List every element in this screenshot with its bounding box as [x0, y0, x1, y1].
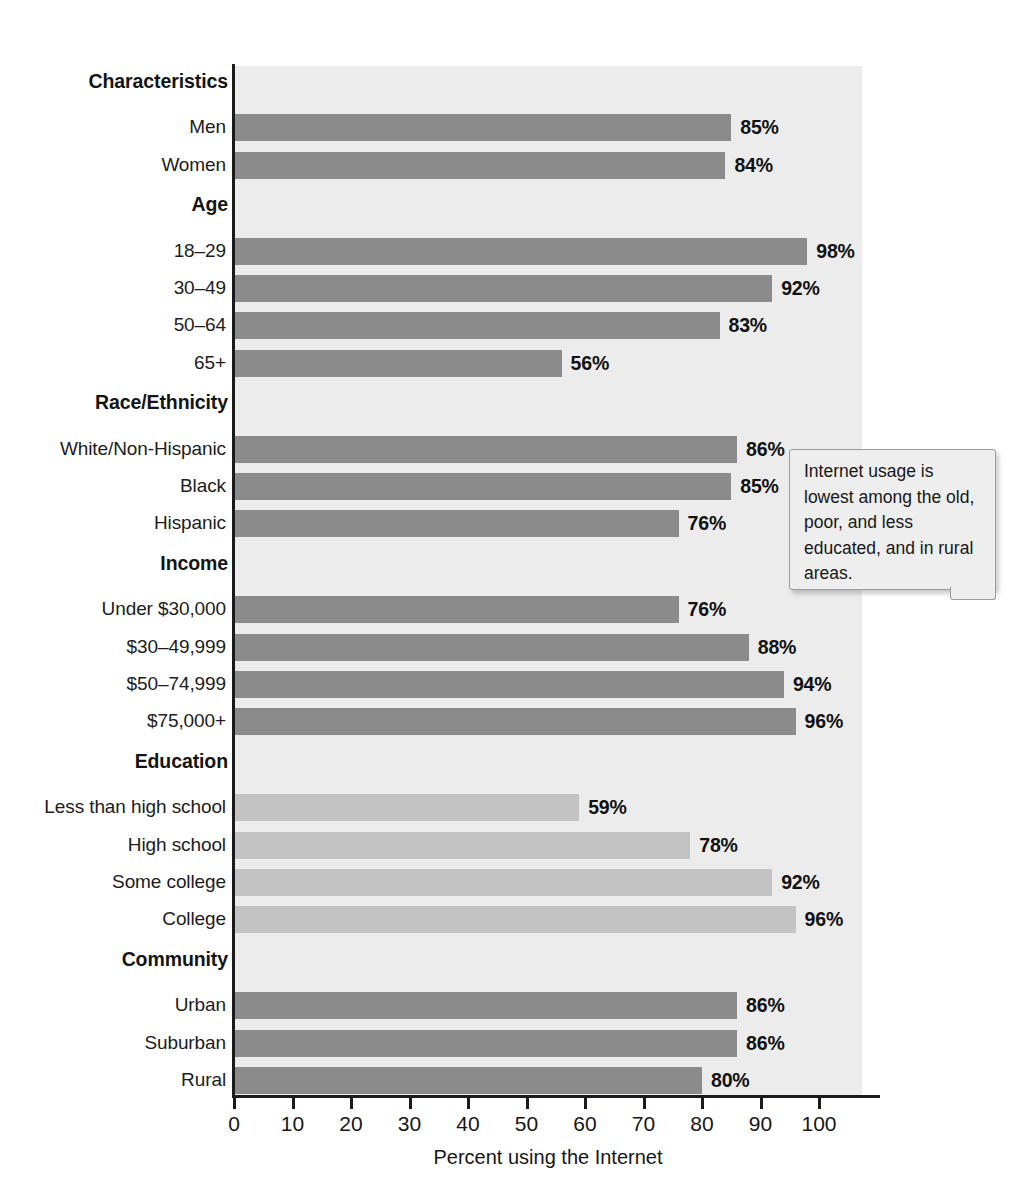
x-tick-label-10: 10 — [281, 1112, 304, 1136]
x-tick-0 — [233, 1096, 236, 1109]
x-tick-label-0: 0 — [228, 1112, 240, 1136]
x-tick-20 — [350, 1096, 353, 1109]
bar-value-under-30-000: 76% — [688, 598, 726, 621]
bar-black — [234, 473, 731, 500]
group-heading-community: Community — [0, 948, 228, 971]
x-tick-label-50: 50 — [515, 1112, 538, 1136]
category-label-urban: Urban — [0, 994, 226, 1016]
category-label-under-30-000: Under $30,000 — [0, 598, 226, 620]
bar-white-non-hispanic — [234, 436, 737, 463]
x-tick-10 — [292, 1096, 295, 1109]
category-label-black: Black — [0, 475, 226, 497]
bar-value-white-non-hispanic: 86% — [746, 438, 784, 461]
bar-hispanic — [234, 510, 679, 537]
x-tick-label-30: 30 — [398, 1112, 421, 1136]
bar-suburban — [234, 1030, 737, 1057]
bar-men — [234, 114, 731, 141]
category-label-75-000: $75,000+ — [0, 710, 226, 732]
callout-text: Internet usage is lowest among the old, … — [804, 459, 982, 587]
bar-30-49-999 — [234, 634, 749, 661]
x-tick-label-40: 40 — [456, 1112, 479, 1136]
category-label-50-74-999: $50–74,999 — [0, 673, 226, 695]
bar-high-school — [234, 832, 690, 859]
x-tick-50 — [526, 1096, 529, 1109]
bar-65 — [234, 350, 562, 377]
category-label-hispanic: Hispanic — [0, 512, 226, 534]
category-label-women: Women — [0, 154, 226, 176]
x-axis-title: Percent using the Internet — [234, 1146, 862, 1169]
bar-value-suburban: 86% — [746, 1032, 784, 1055]
x-tick-label-80: 80 — [690, 1112, 713, 1136]
bar-50-64 — [234, 312, 720, 339]
x-tick-80 — [701, 1096, 704, 1109]
bar-value-some-college: 92% — [781, 871, 819, 894]
category-label-high-school: High school — [0, 834, 226, 856]
category-label-50-64: 50–64 — [0, 314, 226, 336]
chart-page: CharacteristicsMen85%Women84%Age18–2998%… — [0, 0, 1031, 1182]
callout-box: Internet usage is lowest among the old, … — [789, 449, 996, 590]
category-label-18-29: 18–29 — [0, 240, 226, 262]
bar-value-30-49: 92% — [781, 277, 819, 300]
bar-value-college: 96% — [805, 908, 843, 931]
x-tick-60 — [584, 1096, 587, 1109]
bar-50-74-999 — [234, 671, 784, 698]
bar-women — [234, 152, 725, 179]
bar-value-less-than-high-school: 59% — [588, 796, 626, 819]
bar-value-75-000: 96% — [805, 710, 843, 733]
bar-value-50-64: 83% — [729, 314, 767, 337]
group-heading-race-ethnicity: Race/Ethnicity — [0, 391, 228, 414]
bar-75-000 — [234, 708, 796, 735]
category-label-30-49-999: $30–49,999 — [0, 636, 226, 658]
x-tick-label-20: 20 — [339, 1112, 362, 1136]
category-label-some-college: Some college — [0, 871, 226, 893]
bar-value-18-29: 98% — [816, 240, 854, 263]
bar-rural — [234, 1067, 702, 1094]
bar-under-30-000 — [234, 596, 679, 623]
x-tick-label-100: 100 — [801, 1112, 836, 1136]
group-heading-characteristics: Characteristics — [0, 70, 228, 93]
bar-college — [234, 906, 796, 933]
bar-value-high-school: 78% — [699, 834, 737, 857]
bar-urban — [234, 992, 737, 1019]
plot-background — [234, 66, 862, 1095]
callout-fold-tab — [950, 587, 996, 600]
x-tick-40 — [467, 1096, 470, 1109]
x-axis-line — [232, 1095, 880, 1098]
group-heading-income: Income — [0, 552, 228, 575]
bar-value-30-49-999: 88% — [758, 636, 796, 659]
bar-18-29 — [234, 238, 807, 265]
bar-value-50-74-999: 94% — [793, 673, 831, 696]
x-tick-100 — [818, 1096, 821, 1109]
bar-value-men: 85% — [740, 116, 778, 139]
x-tick-90 — [760, 1096, 763, 1109]
bar-30-49 — [234, 275, 772, 302]
category-label-college: College — [0, 908, 226, 930]
x-tick-label-60: 60 — [573, 1112, 596, 1136]
bar-value-urban: 86% — [746, 994, 784, 1017]
group-heading-age: Age — [0, 193, 228, 216]
x-tick-70 — [643, 1096, 646, 1109]
category-label-suburban: Suburban — [0, 1032, 226, 1054]
bar-value-rural: 80% — [711, 1069, 749, 1092]
bar-value-hispanic: 76% — [688, 512, 726, 535]
bar-value-65: 56% — [571, 352, 609, 375]
x-tick-30 — [409, 1096, 412, 1109]
bar-value-women: 84% — [734, 154, 772, 177]
category-label-rural: Rural — [0, 1069, 226, 1091]
category-label-white-non-hispanic: White/Non-Hispanic — [0, 438, 226, 460]
group-heading-education: Education — [0, 750, 228, 773]
category-label-65: 65+ — [0, 352, 226, 374]
y-axis-line — [232, 64, 235, 1095]
x-tick-label-70: 70 — [632, 1112, 655, 1136]
x-tick-label-90: 90 — [749, 1112, 772, 1136]
category-label-30-49: 30–49 — [0, 277, 226, 299]
category-label-less-than-high-school: Less than high school — [0, 796, 226, 818]
category-label-men: Men — [0, 116, 226, 138]
bar-value-black: 85% — [740, 475, 778, 498]
bar-some-college — [234, 869, 772, 896]
bar-less-than-high-school — [234, 794, 579, 821]
